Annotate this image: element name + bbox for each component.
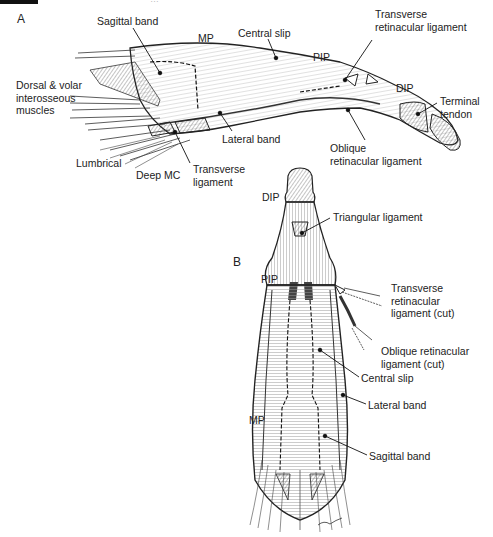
panel-b-letter: B — [233, 255, 241, 269]
label-terminal-tendon: Terminal tendon — [440, 95, 480, 120]
label-triangular-ligament: Triangular ligament — [333, 211, 423, 224]
label-lateral-band: Lateral band — [368, 399, 426, 412]
panel-a-letter: A — [17, 12, 25, 26]
label-lumbrical: Lumbrical — [76, 157, 122, 170]
label-lateral-band: Lateral band — [222, 133, 280, 146]
label-dip: DIP — [396, 82, 414, 95]
label-pip: PIP — [313, 51, 330, 64]
label-deep-mc: Deep MC — [136, 169, 180, 182]
label-transverse-retinacular-ligament-cut: Transverse retinacular ligament (cut) — [391, 282, 455, 320]
label-sagittal-band: Sagittal band — [97, 15, 158, 28]
label-transverse-retinacular-ligament: Transverse retinacular ligament — [375, 8, 467, 33]
label-dip: DIP — [262, 191, 280, 204]
label-central-slip: Central slip — [361, 372, 414, 385]
label-mp: MP — [249, 414, 265, 427]
label-dorsal-volar-interosseous-muscles: Dorsal & volar interosseous muscles — [16, 79, 82, 117]
label-mp: MP — [198, 32, 214, 45]
label-sagittal-band: Sagittal band — [369, 450, 430, 463]
label-pip: PIP — [261, 273, 278, 286]
label-oblique-retinacular-ligament-cut: Oblique retinacular ligament (cut) — [381, 345, 469, 370]
label-central-slip: Central slip — [238, 27, 291, 40]
label-oblique-retinacular-ligament: Oblique retinacular ligament — [330, 142, 422, 167]
label-transverse-ligament: Transverse ligament — [193, 163, 245, 188]
